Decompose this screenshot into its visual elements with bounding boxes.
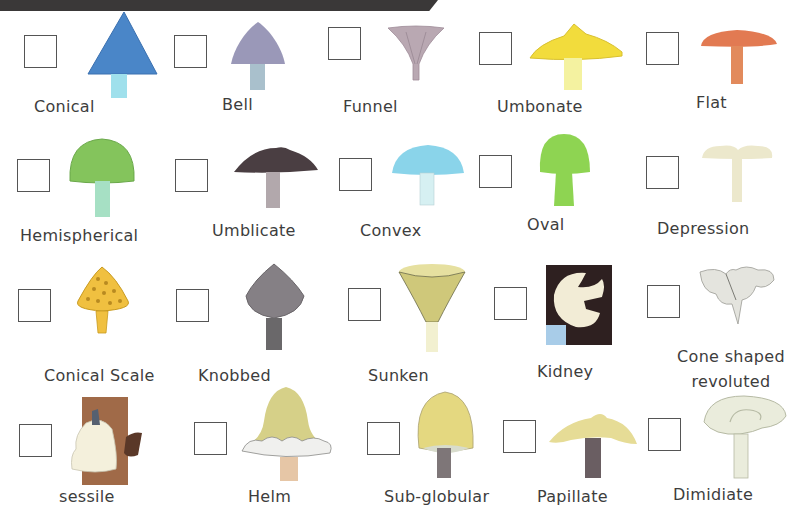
label-umbonate: Umbonate (497, 97, 583, 116)
sessile-mushroom-icon (68, 395, 148, 487)
label-cone-shaped-revoluted: Cone shaped revoluted (671, 347, 790, 391)
umbonate-mushroom-icon (528, 22, 624, 92)
label-sub-globular: Sub-globular (384, 487, 489, 506)
knobbed-mushroom-icon (242, 262, 308, 352)
hemispherical-mushroom-icon (68, 137, 138, 219)
label-kidney: Kidney (537, 362, 593, 381)
label-knobbed: Knobbed (198, 366, 271, 385)
umblicate-mushroom-icon (232, 144, 320, 210)
checkbox-cone-shaped-revoluted[interactable] (647, 285, 680, 318)
cone-shaped-revoluted-mushroom-icon (696, 264, 778, 330)
checkbox-papillate[interactable] (503, 420, 536, 453)
flat-mushroom-icon (697, 26, 781, 86)
papillate-mushroom-icon (545, 408, 639, 480)
checkbox-sessile[interactable] (19, 424, 52, 457)
checkbox-conical[interactable] (24, 35, 57, 68)
label-dimidiate: Dimidiate (673, 485, 753, 504)
checkbox-helm[interactable] (194, 422, 227, 455)
label-conical-scale: Conical Scale (44, 366, 155, 385)
label-conical: Conical (34, 97, 95, 116)
label-hemispherical: Hemispherical (20, 226, 138, 245)
conical-mushroom-icon (84, 10, 160, 100)
checkbox-depression[interactable] (646, 156, 679, 189)
label-bell: Bell (222, 95, 253, 114)
checkbox-conical-scale[interactable] (18, 289, 51, 322)
label-oval: Oval (527, 215, 565, 234)
checkbox-sunken[interactable] (348, 288, 381, 321)
depression-mushroom-icon (700, 142, 776, 204)
sunken-mushroom-icon (396, 262, 468, 354)
checkbox-hemispherical[interactable] (17, 159, 50, 192)
label-papillate: Papillate (537, 487, 608, 506)
checkbox-funnel[interactable] (328, 27, 361, 60)
convex-mushroom-icon (390, 143, 466, 207)
label-helm: Helm (248, 487, 291, 506)
checkbox-sub-globular[interactable] (367, 422, 400, 455)
label-flat: Flat (696, 93, 727, 112)
kidney-mushroom-icon (546, 265, 612, 345)
conical-scale-mushroom-icon (72, 265, 134, 335)
checkbox-knobbed[interactable] (176, 289, 209, 322)
checkbox-umblicate[interactable] (175, 159, 208, 192)
oval-mushroom-icon (536, 132, 594, 210)
header-bar (0, 0, 438, 11)
checkbox-flat[interactable] (646, 32, 679, 65)
checkbox-convex[interactable] (339, 158, 372, 191)
checkbox-dimidiate[interactable] (648, 418, 681, 451)
checkbox-kidney[interactable] (494, 287, 527, 320)
checkbox-bell[interactable] (174, 35, 207, 68)
bell-mushroom-icon (228, 20, 290, 92)
checkbox-oval[interactable] (479, 155, 512, 188)
helm-mushroom-icon (238, 385, 336, 485)
label-umblicate: Umblicate (212, 221, 296, 240)
sub-globular-mushroom-icon (415, 388, 477, 480)
label-sessile: sessile (59, 487, 115, 506)
label-sunken: Sunken (368, 366, 429, 385)
dimidiate-mushroom-icon (700, 392, 790, 482)
label-depression: Depression (657, 219, 749, 238)
funnel-mushroom-icon (386, 24, 448, 86)
label-funnel: Funnel (343, 97, 398, 116)
checkbox-umbonate[interactable] (479, 32, 512, 65)
label-convex: Convex (360, 221, 421, 240)
